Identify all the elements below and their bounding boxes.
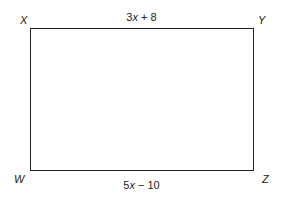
side-xy-rest: + 8 — [138, 11, 157, 23]
rectangle-wxyz — [30, 28, 254, 171]
side-wz-length-label: 5x − 10 — [0, 180, 283, 191]
side-xy-length-label: 3x + 8 — [0, 12, 283, 23]
side-wz-rest: − 10 — [135, 179, 160, 191]
